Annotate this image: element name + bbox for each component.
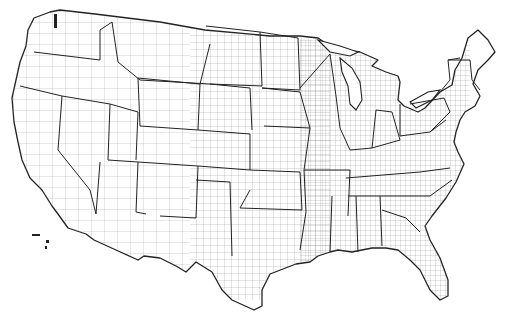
map-canvas (0, 0, 521, 332)
us-county-map (0, 0, 521, 332)
county-boundaries (10, 10, 470, 310)
